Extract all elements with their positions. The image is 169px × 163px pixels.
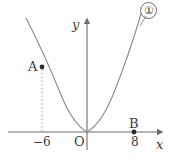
x-axis	[8, 129, 164, 135]
y-axis-label: y	[72, 18, 79, 31]
x-tick-label-minus-6: −6	[33, 136, 51, 148]
point-b-label: B	[129, 117, 139, 130]
parabola-figure: ① y x O A B −6 8	[0, 0, 169, 163]
origin-label: O	[74, 135, 85, 148]
point-a-label: A	[28, 60, 37, 73]
x-tick-label-8: 8	[131, 136, 139, 148]
x-axis-label: x	[156, 138, 163, 151]
x-axis-arrow-icon	[157, 129, 164, 135]
curve-callout-number: ①	[140, 2, 157, 19]
y-axis-arrow-icon	[84, 18, 90, 25]
parabola-curve	[26, 14, 141, 132]
point-a-marker	[40, 65, 45, 70]
